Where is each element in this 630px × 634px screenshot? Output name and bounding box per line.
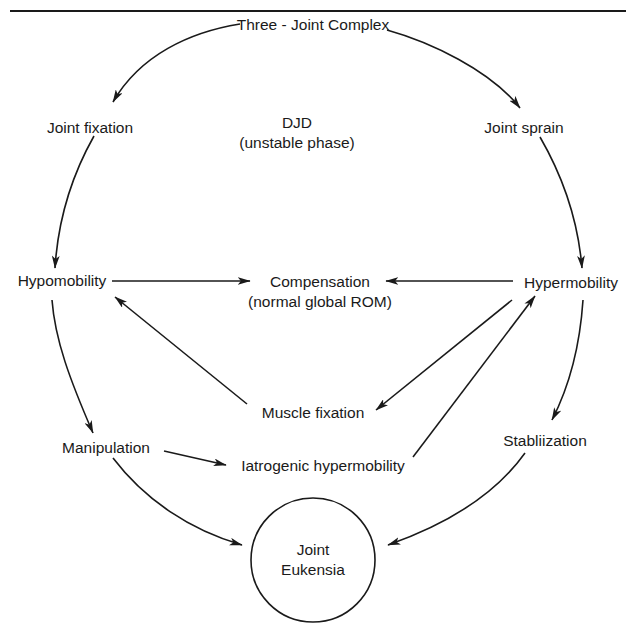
- edge-stabilization-to-eukensia: [388, 453, 525, 545]
- node-three-joint-complex: Three - Joint Complex: [237, 16, 390, 33]
- node-joint-fixation: Joint fixation: [47, 119, 133, 136]
- node-manipulation: Manipulation: [62, 439, 150, 456]
- node-iatrogenic-hypermobility: Iatrogenic hypermobility: [241, 457, 405, 474]
- edge-joint-sprain-to-hypermobility: [540, 137, 582, 268]
- joint-eukensia-circle: [251, 498, 375, 622]
- node-djd-subtitle: (unstable phase): [239, 134, 354, 151]
- node-djd: DJD: [282, 114, 312, 131]
- node-joint-sprain: Joint sprain: [484, 119, 563, 136]
- edge-joint-fixation-to-hypomobility: [55, 136, 94, 268]
- node-compensation: Compensation: [270, 273, 370, 290]
- node-hypermobility: Hypermobility: [524, 274, 618, 291]
- edge-hypermobility-to-muscle-fixation: [376, 300, 512, 410]
- node-hypomobility: Hypomobility: [18, 272, 107, 289]
- edge-manipulation-to-eukensia: [113, 458, 242, 545]
- edge-muscle-fixation-to-hypomobility: [115, 297, 247, 404]
- node-joint-eukensia: Joint: [297, 541, 330, 558]
- edge-hypermobility-to-stabilization: [552, 300, 583, 420]
- edge-hypomobility-to-manipulation: [52, 300, 93, 433]
- edge-manipulation-to-iatrogenic: [164, 451, 226, 465]
- node-stabilization: Stabliization: [503, 432, 587, 449]
- joint-complex-diagram: Three - Joint Complex Joint fixation Joi…: [0, 0, 630, 634]
- node-joint-eukensia-line2: Eukensia: [281, 561, 345, 578]
- edge-complex-to-joint-sprain: [387, 30, 520, 108]
- node-muscle-fixation: Muscle fixation: [262, 404, 365, 421]
- node-compensation-subtitle: (normal global ROM): [248, 293, 392, 310]
- edge-complex-to-joint-fixation: [113, 24, 240, 102]
